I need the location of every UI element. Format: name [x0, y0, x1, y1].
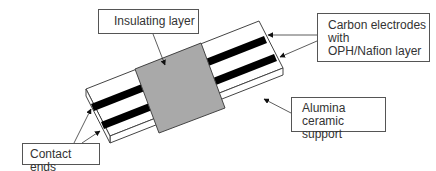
alumina-support-label: Alumina ceramic support	[291, 97, 386, 132]
carbon-electrodes-text-line3: OPH/Nafion layer	[328, 45, 429, 58]
contact-end-arrow-2	[82, 131, 100, 143]
alumina-support-text-line2: ceramic support	[302, 115, 385, 141]
contact-ends-text: Contact ends	[30, 148, 99, 171]
contact-end-arrow-1	[74, 109, 91, 143]
insulating-layer-text: Insulating layer	[114, 15, 198, 28]
insulating-layer-label: Insulating layer	[98, 9, 199, 34]
carbon-electrode-arrow-2	[280, 41, 317, 57]
carbon-electrodes-label: Carbon electrodes with OPH/Nafion layer	[317, 13, 430, 62]
alumina-support-arrow	[264, 99, 291, 113]
contact-ends-label: Contact ends	[22, 143, 100, 165]
